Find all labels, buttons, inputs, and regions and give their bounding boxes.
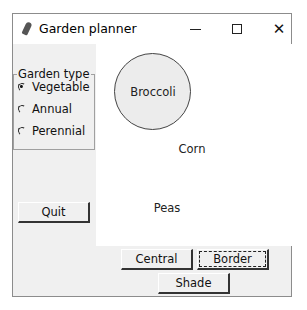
window-title: Garden planner bbox=[39, 21, 137, 36]
radio-unchecked-icon bbox=[17, 126, 26, 135]
close-icon: ✕ bbox=[273, 20, 286, 38]
radio-annual[interactable]: Annual bbox=[18, 102, 72, 116]
minimize-icon bbox=[190, 29, 201, 30]
garden-canvas[interactable]: Broccoli Corn Peas bbox=[96, 44, 292, 246]
shade-label: Shade bbox=[175, 276, 211, 290]
quit-button[interactable]: Quit bbox=[18, 202, 90, 223]
minimize-button[interactable] bbox=[175, 14, 215, 44]
radio-unchecked-icon bbox=[17, 104, 26, 113]
close-button[interactable]: ✕ bbox=[259, 14, 299, 44]
central-button[interactable]: Central bbox=[121, 249, 193, 270]
radio-checked-icon bbox=[17, 82, 26, 91]
garden-type-label: Garden type bbox=[17, 67, 91, 81]
central-label: Central bbox=[136, 252, 178, 266]
radio-perennial[interactable]: Perennial bbox=[18, 124, 85, 138]
quit-label: Quit bbox=[41, 205, 65, 219]
radio-label: Perennial bbox=[32, 124, 85, 138]
broccoli-label: Broccoli bbox=[130, 85, 175, 99]
radio-label: Annual bbox=[32, 102, 72, 116]
garden-type-group: Garden type Vegetable Annual Perennial bbox=[13, 74, 95, 150]
maximize-icon bbox=[232, 24, 242, 34]
focus-ring bbox=[199, 251, 266, 267]
feather-icon bbox=[22, 21, 33, 35]
peas-label: Peas bbox=[154, 201, 181, 215]
radio-label: Vegetable bbox=[32, 80, 90, 94]
corn-label: Corn bbox=[179, 142, 206, 156]
radio-vegetable[interactable]: Vegetable bbox=[18, 80, 90, 94]
border-button[interactable]: Border bbox=[197, 249, 269, 270]
app-window: Garden planner ✕ Garden type Vegetable A… bbox=[12, 13, 292, 297]
shade-button[interactable]: Shade bbox=[158, 273, 230, 294]
maximize-button[interactable] bbox=[217, 14, 257, 44]
title-bar[interactable]: Garden planner ✕ bbox=[13, 14, 291, 44]
